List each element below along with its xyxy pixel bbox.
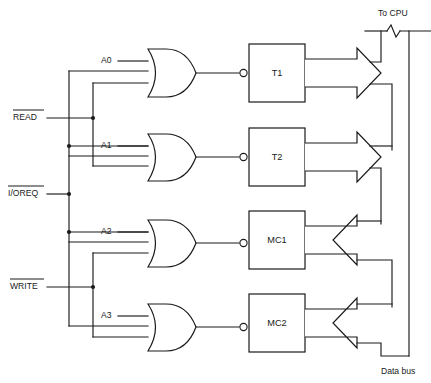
junction-dot-read xyxy=(91,116,95,120)
inverting-bubble-t1 xyxy=(240,69,247,76)
block-label-mc2: MC2 xyxy=(267,318,286,328)
bus-arrow-t1 xyxy=(305,48,381,98)
or-gate-a3 xyxy=(148,304,247,351)
label-to-cpu: To CPU xyxy=(378,8,408,18)
bus-arrow-mc2 xyxy=(305,298,357,348)
label-a1: A1 xyxy=(101,140,112,150)
ioreq-mid-feeds xyxy=(69,146,148,232)
label-read: READ xyxy=(13,110,44,122)
ioreq-vertical-rail xyxy=(69,71,148,326)
or-gate-a1 xyxy=(148,134,247,181)
bus-arrow-t2 xyxy=(305,132,381,182)
schematic-svg: T1 T2 MC1 MC2 xyxy=(0,0,431,383)
label-ioreq: I/OREQ xyxy=(8,186,44,198)
junction-dot-ioreq xyxy=(67,192,71,196)
to-cpu-bus xyxy=(365,25,431,37)
or-gate-a2 xyxy=(148,220,247,267)
block-label-mc1: MC1 xyxy=(267,235,286,245)
label-data-bus: Data bus xyxy=(381,366,415,376)
mc1-bus-wires xyxy=(357,221,392,307)
mc2-bus-wires xyxy=(357,304,409,356)
label-ioreq-text: I/OREQ xyxy=(8,188,38,198)
block-label-t1: T1 xyxy=(272,68,283,78)
label-a2: A2 xyxy=(101,226,112,236)
block-label-t2: T2 xyxy=(272,152,283,162)
label-read-text: READ xyxy=(13,112,37,122)
label-write: WRITE xyxy=(10,279,44,291)
label-a0: A0 xyxy=(101,55,112,65)
junction-dot-write xyxy=(91,285,95,289)
inverting-bubble-mc2 xyxy=(240,323,247,330)
label-write-text: WRITE xyxy=(10,281,38,291)
inverting-bubble-mc1 xyxy=(240,239,247,246)
label-a3: A3 xyxy=(101,310,112,320)
read-write-vertical-rail xyxy=(93,83,148,337)
t1-bus-wires xyxy=(370,31,392,150)
logic-diagram-canvas: T1 T2 MC1 MC2 xyxy=(0,0,431,383)
bus-arrow-mc1 xyxy=(305,215,357,265)
or-gate-a0 xyxy=(148,49,247,97)
inverting-bubble-t2 xyxy=(240,153,247,160)
